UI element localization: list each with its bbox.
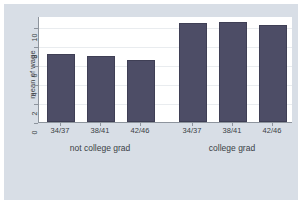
x-tick-label: 34/37: [40, 126, 80, 135]
group-label: college grad: [172, 143, 292, 153]
x-tick-label: 42/46: [120, 126, 160, 135]
bar: [47, 54, 75, 122]
gridline: [39, 47, 292, 48]
y-tick-label: 4: [31, 85, 38, 105]
y-tick-mark: [34, 123, 38, 124]
plot-area: [38, 17, 292, 123]
y-tick-label: 10: [31, 28, 38, 48]
x-tick-label: 34/37: [172, 126, 212, 135]
gridline: [39, 104, 292, 105]
bar: [259, 25, 287, 122]
gridline: [39, 66, 292, 67]
group-label: not college grad: [40, 143, 160, 153]
y-tick-label: 2: [31, 104, 38, 124]
bar: [219, 22, 247, 122]
gridline: [39, 85, 292, 86]
gridline: [39, 28, 292, 29]
x-tick-label: 42/46: [252, 126, 292, 135]
bar: [127, 60, 155, 122]
y-tick-label: 0: [31, 123, 38, 143]
x-tick-label: 38/41: [80, 126, 120, 135]
chart-figure: mean of wage 0246810 34/3738/4142/4634/3…: [0, 0, 302, 204]
bar: [179, 23, 207, 122]
bar: [87, 56, 115, 122]
y-tick-label: 6: [31, 66, 38, 86]
x-tick-label: 38/41: [212, 126, 252, 135]
y-tick-label: 8: [31, 47, 38, 67]
